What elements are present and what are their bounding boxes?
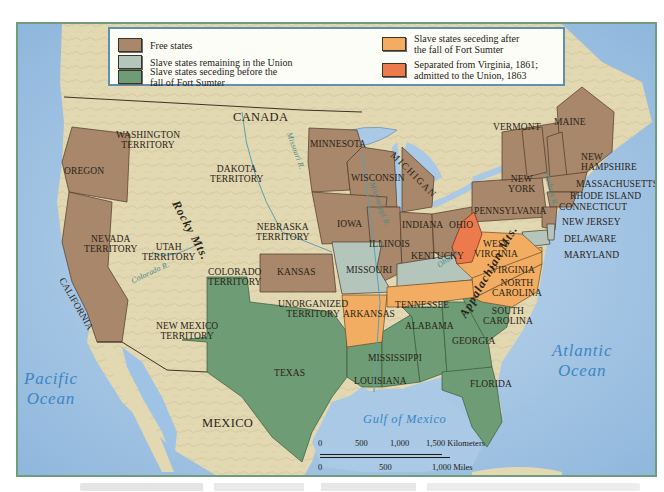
label-washington-territory: WASHINGTON TERRITORY: [116, 130, 180, 150]
label-new-jersey: NEW JERSEY: [562, 217, 621, 227]
label-canada: CANADA: [233, 111, 288, 124]
swatch-free-states: [118, 38, 142, 52]
label-nebraska-territory: NEBRASKA TERRITORY: [256, 222, 310, 242]
legend-item-seceding-after: Slave states seceding after the fall of …: [382, 33, 519, 55]
legend-item-free-states: Free states: [118, 38, 193, 52]
label-indiana: INDIANA: [402, 220, 443, 230]
label-tennessee: TENNESSEE: [395, 300, 449, 310]
label-nevada-territory: NEVADA TERRITORY: [84, 234, 138, 254]
legend-item-west-virginia: Separated from Virginia, 1861; admitted …: [382, 59, 538, 81]
legend-label: Slave states seceding after the fall of …: [414, 33, 519, 55]
label-texas: TEXAS: [274, 368, 305, 378]
scale-bar: 0 500 1,000 1,500 Kilometers 0 500 1,000…: [318, 438, 498, 477]
label-louisiana: LOUISIANA: [354, 376, 407, 386]
scale-mi-1000: 1,000 Miles: [432, 462, 473, 472]
caption-cut-off: [80, 482, 640, 492]
label-south-carolina: SOUTH CAROLINA: [483, 306, 533, 326]
scale-km-1500: 1,500 Kilometers: [426, 438, 485, 448]
scale-line-miles: [320, 457, 450, 458]
label-ohio: OHIO: [449, 220, 473, 230]
label-maine: MAINE: [554, 117, 586, 127]
label-missouri: MISSOURI: [346, 265, 392, 275]
label-unorganized-territory: UNORGANIZED TERRITORY: [278, 299, 348, 319]
label-mexico: MEXICO: [202, 417, 253, 430]
label-new-hampshire: NEW HAMPSHIRE: [581, 152, 637, 172]
label-connecticut: CONNECTICUT: [559, 202, 627, 212]
label-new-york: NEW YORK: [508, 174, 535, 194]
label-kansas: KANSAS: [277, 267, 316, 277]
legend-label: Separated from Virginia, 1861; admitted …: [414, 59, 538, 81]
label-iowa: IOWA: [337, 219, 362, 229]
map-frame: CANADA MEXICO Pacific Ocean Atlantic Oce…: [16, 22, 657, 477]
scale-mi-500: 500: [379, 462, 392, 472]
swatch-seceding-before: [118, 70, 142, 84]
label-georgia: GEORGIA: [452, 336, 495, 346]
scale-km-500: 500: [355, 438, 368, 448]
legend-item-seceding-before: Slave states seceding before the fall of…: [118, 66, 277, 88]
label-new-mexico-territory: NEW MEXICO TERRITORY: [156, 321, 218, 341]
label-maryland: MARYLAND: [564, 250, 619, 260]
label-kentucky: KENTUCKY: [411, 251, 464, 261]
label-colorado-territory: COLORADO TERRITORY: [208, 267, 262, 287]
label-alabama: ALABAMA: [405, 321, 454, 331]
label-west-virginia: WEST VIRGINIA: [474, 239, 518, 259]
scale-mi-0: 0: [318, 462, 322, 472]
label-florida: FLORIDA: [470, 379, 512, 389]
label-wisconsin: WISCONSIN: [351, 173, 405, 183]
label-illinois: ILLINOIS: [369, 239, 410, 249]
swatch-seceding-after: [382, 37, 406, 51]
legend-label: Free states: [150, 40, 193, 51]
swatch-west-virginia: [382, 63, 406, 77]
label-pennsylvania: PENNSYLVANIA: [474, 206, 546, 216]
label-arkansas: ARKANSAS: [343, 309, 395, 319]
label-utah-territory: UTAH TERRITORY: [142, 242, 196, 262]
scale-km-1000: 1,000: [390, 438, 409, 448]
label-north-carolina: NORTH CAROLINA: [492, 278, 542, 298]
label-dakota-territory: DAKOTA TERRITORY: [210, 164, 264, 184]
label-virginia: VIRGINIA: [491, 265, 535, 275]
label-pacific-ocean: Pacific Ocean: [24, 369, 78, 409]
map-legend: Free states Slave states remaining in th…: [108, 27, 565, 86]
label-vermont: VERMONT: [493, 122, 541, 132]
caption-ghost-text: [80, 483, 640, 491]
label-minnesota: MINNESOTA: [310, 139, 366, 149]
label-massachusetts: MASSACHUSETTS: [576, 179, 657, 189]
label-mississippi: MISSISSIPPI: [368, 353, 422, 363]
label-oregon: OREGON: [64, 166, 104, 176]
label-rhode-island: RHODE ISLAND: [570, 191, 641, 201]
scale-km-0: 0: [318, 438, 322, 448]
legend-label: Slave states seceding before the fall of…: [150, 66, 277, 88]
label-delaware: DELAWARE: [564, 234, 616, 244]
label-atlantic-ocean: Atlantic Ocean: [552, 341, 612, 381]
scale-line-km: [320, 454, 442, 455]
label-gulf-of-mexico: Gulf of Mexico: [363, 414, 446, 424]
